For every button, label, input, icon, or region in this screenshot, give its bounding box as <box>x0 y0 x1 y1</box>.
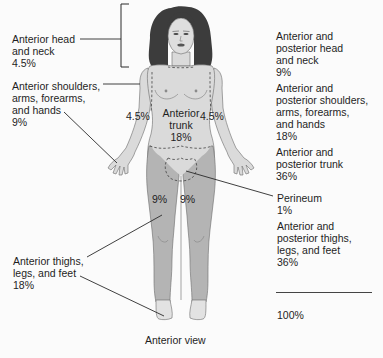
label-ap-head-neck: Anterior and posterior head and neck 9% <box>276 30 343 78</box>
label-percent: 4.5% <box>12 57 75 69</box>
left-thigh-percent: 9% <box>152 193 167 205</box>
label-line: Anterior and <box>276 30 343 42</box>
label-percent: 9% <box>276 66 343 78</box>
label-line: Anterior head <box>12 33 75 45</box>
left-arm-percent: 4.5% <box>126 110 150 122</box>
leader-feet <box>80 276 164 316</box>
label-line: arms, forearms, <box>276 106 368 118</box>
label-line: Anterior shoulders, <box>12 80 100 92</box>
trunk-label-line1: Anterior <box>158 107 204 119</box>
label-line: posterior head <box>276 42 343 54</box>
label-anterior-arms: Anterior shoulders, arms, forearms, and … <box>12 80 100 128</box>
label-percent: 18% <box>13 279 84 291</box>
label-perineum: Perineum 1% <box>277 192 322 216</box>
trunk-label-line2: trunk <box>158 119 204 131</box>
label-line: posterior thighs, <box>277 232 352 244</box>
left-foot <box>156 300 172 320</box>
label-line: Anterior thighs, <box>13 255 84 267</box>
label-line: and hands <box>12 104 100 116</box>
label-percent: 36% <box>276 170 343 182</box>
label-line: arms, forearms, <box>12 92 100 104</box>
total-divider <box>276 292 372 293</box>
trunk-label: Anterior trunk 18% <box>158 107 204 143</box>
label-line: Perineum <box>277 192 322 204</box>
label-line: posterior trunk <box>276 158 343 170</box>
right-foot <box>190 300 206 320</box>
label-ap-arms: Anterior and posterior shoulders, arms, … <box>276 82 368 142</box>
label-line: posterior shoulders, <box>276 94 368 106</box>
trunk-percent: 18% <box>158 131 204 143</box>
label-line: legs, and feet <box>277 244 352 256</box>
label-percent: 9% <box>12 116 100 128</box>
label-line: and hands <box>276 118 368 130</box>
label-percent: 1% <box>277 204 322 216</box>
label-line: Anterior and <box>277 220 352 232</box>
head-bracket <box>121 4 129 67</box>
figure-caption: Anterior view <box>145 334 206 346</box>
label-line: Anterior and <box>276 146 343 158</box>
total-percent: 100% <box>277 309 304 321</box>
label-ap-trunk: Anterior and posterior trunk 36% <box>276 146 343 182</box>
label-percent: 36% <box>277 256 352 268</box>
label-line: and neck <box>276 54 343 66</box>
label-line: Anterior and <box>276 82 368 94</box>
label-line: and neck <box>12 45 75 57</box>
label-ap-legs: Anterior and posterior thighs, legs, and… <box>277 220 352 268</box>
label-line: legs, and feet <box>13 267 84 279</box>
leader-thighs <box>87 215 162 257</box>
label-percent: 18% <box>276 130 368 142</box>
label-anterior-legs: Anterior thighs, legs, and feet 18% <box>13 255 84 291</box>
label-anterior-head-neck: Anterior head and neck 4.5% <box>12 33 75 69</box>
right-thigh-percent: 9% <box>180 193 195 205</box>
